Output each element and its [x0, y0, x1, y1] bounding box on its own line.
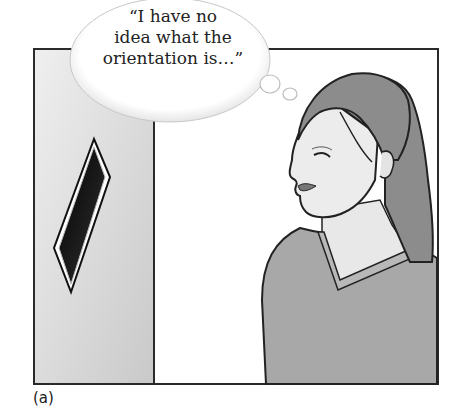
thought-line-1: “I have no [88, 6, 258, 27]
thought-line-3: orientation is…” [88, 48, 258, 69]
thought-dot-small [283, 88, 297, 100]
thought-bubble-text: “I have no idea what the orientation is…… [88, 6, 258, 69]
thought-dot-large [260, 75, 280, 93]
figure-caption: (a) [33, 389, 54, 407]
thought-line-2: idea what the [88, 27, 258, 48]
illustration: “I have no idea what the orientation is…… [0, 0, 462, 416]
